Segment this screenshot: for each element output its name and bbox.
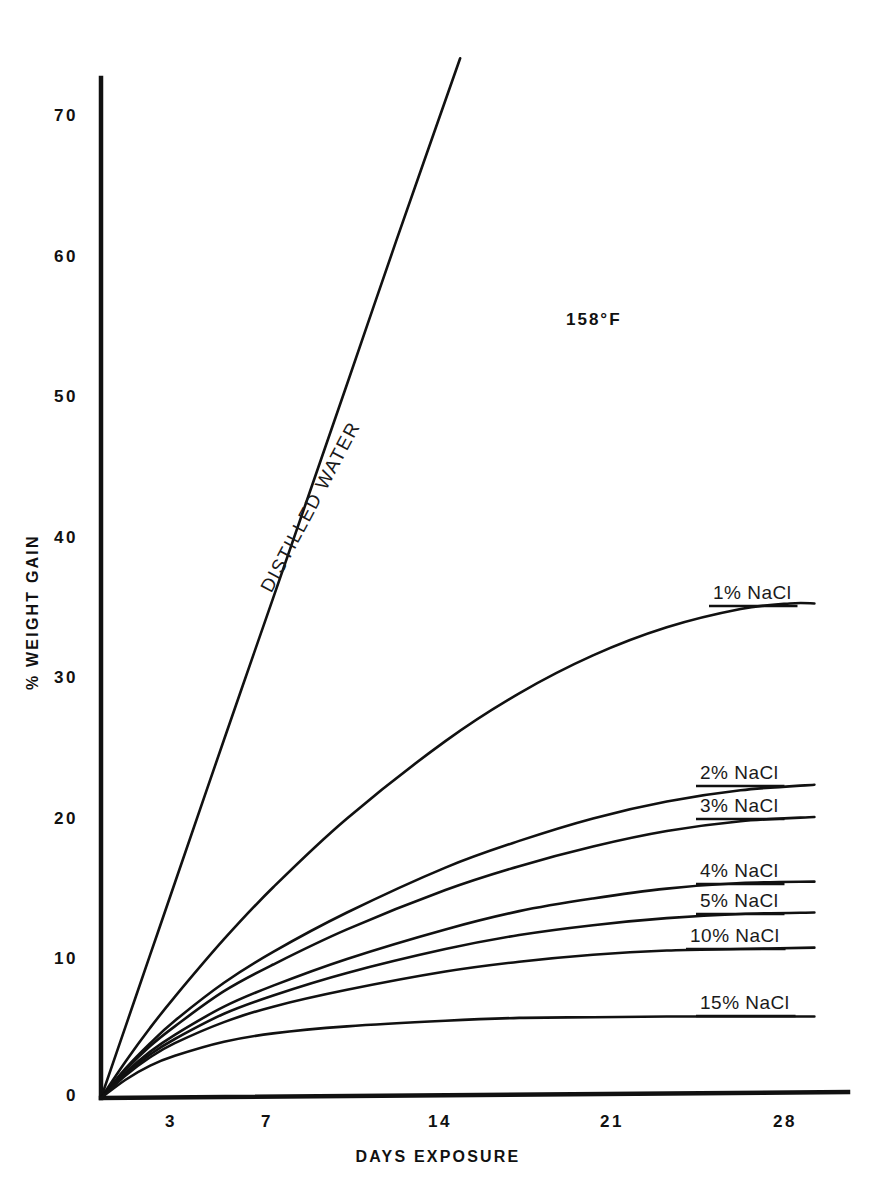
series-label-4-nacl: 4% NaCl	[700, 860, 778, 882]
x-axis-title: DAYS EXPOSURE	[0, 1148, 876, 1166]
x-tick-label-3: 3	[146, 1112, 196, 1132]
x-tick-label-14: 14	[413, 1112, 467, 1132]
x-tick-label-7: 7	[242, 1112, 292, 1132]
x-tick-label-28: 28	[758, 1112, 812, 1132]
series-curve-1-nacl	[101, 603, 814, 1098]
chart-figure: 70 60 50 40 30 20 10 0 3 7 14 21 28 DAYS…	[0, 0, 876, 1188]
y-tick-label-70: 70	[30, 106, 78, 126]
series-curve-10-nacl	[101, 948, 814, 1098]
y-axis-title: % WEIGHT GAIN	[24, 534, 42, 690]
y-tick-label-10: 10	[30, 949, 78, 969]
y-tick-label-60: 60	[30, 247, 78, 267]
y-tick-label-20: 20	[30, 809, 78, 829]
temperature-annotation: 158°F	[566, 310, 622, 330]
x-axis-line	[101, 1092, 848, 1098]
series-label-3-nacl: 3% NaCl	[700, 795, 778, 817]
series-label-10-nacl: 10% NaCl	[690, 925, 780, 947]
y-tick-label-0: 0	[30, 1086, 78, 1106]
series-label-1-nacl: 1% NaCl	[713, 582, 791, 604]
series-label-15-nacl: 15% NaCl	[700, 992, 790, 1014]
x-tick-label-21: 21	[585, 1112, 639, 1132]
y-tick-label-50: 50	[30, 387, 78, 407]
series-label-5-nacl: 5% NaCl	[700, 890, 778, 912]
series-label-2-nacl: 2% NaCl	[700, 762, 778, 784]
